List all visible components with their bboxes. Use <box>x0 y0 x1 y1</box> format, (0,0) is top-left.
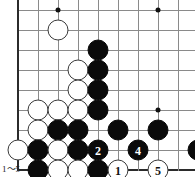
black-stone[interactable] <box>88 60 109 81</box>
go-diagram-root: 24153 1～5 <box>0 0 195 177</box>
white-stone[interactable] <box>48 140 69 161</box>
black-stone[interactable] <box>68 140 89 161</box>
star-point <box>156 8 161 13</box>
black-stone[interactable] <box>188 140 196 161</box>
grid-line-vertical <box>158 0 159 171</box>
black-stone[interactable] <box>28 140 49 161</box>
grid-line-vertical <box>178 0 179 171</box>
grid-line-horizontal <box>18 10 195 11</box>
black-stone[interactable] <box>88 80 109 101</box>
star-point <box>56 8 61 13</box>
star-point <box>156 108 161 113</box>
white-stone[interactable] <box>8 140 29 161</box>
white-stone[interactable] <box>48 20 69 41</box>
numbered-stone-2[interactable]: 2 <box>88 140 109 161</box>
white-stone[interactable] <box>68 60 89 81</box>
diagram-caption: 1～5 <box>2 166 122 177</box>
stone-move-number: 4 <box>135 144 141 156</box>
black-stone[interactable] <box>148 120 169 141</box>
go-board[interactable]: 24153 <box>0 0 195 177</box>
black-stone[interactable] <box>88 100 109 121</box>
white-stone[interactable] <box>48 100 69 121</box>
stone-move-number: 5 <box>155 164 161 176</box>
grid-line-horizontal <box>18 30 195 31</box>
black-stone[interactable] <box>88 40 109 61</box>
black-stone[interactable] <box>48 120 69 141</box>
black-stone[interactable] <box>68 120 89 141</box>
white-stone[interactable] <box>28 100 49 121</box>
black-stone[interactable] <box>108 120 129 141</box>
white-stone[interactable] <box>68 80 89 101</box>
grid-line-vertical <box>118 0 119 171</box>
caption-text: 1～5 <box>2 166 122 175</box>
white-stone[interactable] <box>28 120 49 141</box>
white-stone[interactable] <box>68 100 89 121</box>
stone-move-number: 2 <box>95 144 101 156</box>
numbered-stone-4[interactable]: 4 <box>128 140 149 161</box>
numbered-stone-5[interactable]: 5 <box>148 160 169 178</box>
